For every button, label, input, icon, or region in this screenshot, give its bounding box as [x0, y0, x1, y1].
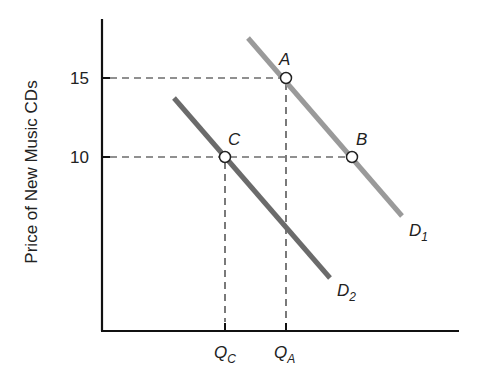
point-a-marker: [281, 73, 292, 84]
y-tick-label-10: 10: [70, 148, 89, 167]
y-tick-label-15: 15: [70, 69, 89, 88]
demand-curve-d2: [174, 98, 330, 278]
d2-label: D2: [337, 281, 356, 304]
point-c-marker: [220, 152, 231, 163]
point-b-marker: [347, 152, 358, 163]
qc-label: QC: [214, 343, 236, 366]
point-b-label: B: [356, 130, 367, 149]
qa-label: QA: [274, 343, 295, 366]
point-a-label: A: [278, 50, 290, 69]
y-axis-title: Price of New Music CDs: [22, 80, 41, 263]
point-c-label: C: [228, 130, 241, 149]
demand-curve-d1: [248, 38, 402, 216]
demand-shift-chart: A B C 15 10 D1 D2 QC QA Price of New Mus…: [0, 0, 479, 388]
d1-label: D1: [409, 221, 428, 244]
